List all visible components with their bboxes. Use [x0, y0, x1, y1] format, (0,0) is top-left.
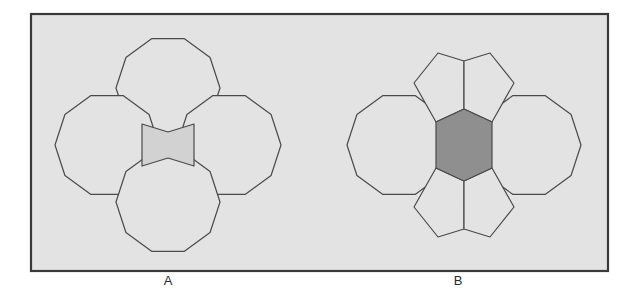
panel-a-label: A [164, 273, 173, 288]
figure-root: A B [0, 0, 636, 291]
panel-b-label: B [454, 273, 463, 288]
shaded-hexagon [436, 109, 492, 181]
decagon-bottom [116, 153, 220, 252]
diagram-canvas: A B [0, 0, 636, 291]
